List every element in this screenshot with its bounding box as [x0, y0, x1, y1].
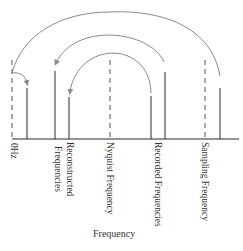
- aliasing-diagram: 0Hz Reconstructed Frequencies Nyquist Fr…: [0, 0, 243, 251]
- reconstructed-label-line2: Frequencies: [52, 146, 63, 192]
- outer-aliasing-arc: [12, 12, 220, 76]
- recorded-label: Recorded Frequencies: [152, 142, 163, 227]
- zero-hz-label: 0Hz: [8, 143, 19, 159]
- middle-aliasing-arc: [56, 35, 164, 63]
- frequency-axis-label: Frequency: [93, 228, 135, 239]
- zero-reflection-hook-arrow: [12, 73, 27, 83]
- nyquist-label: Nyquist Frequency: [104, 142, 115, 215]
- sampling-label: Sampling Frequency: [199, 142, 210, 221]
- reconstructed-label-line1: Reconstructed: [64, 142, 75, 196]
